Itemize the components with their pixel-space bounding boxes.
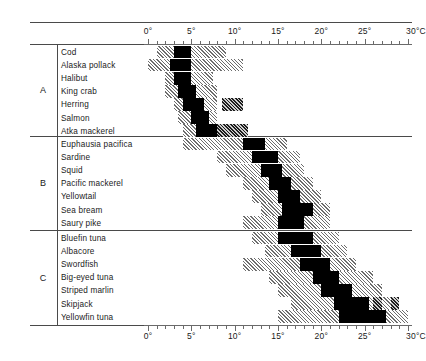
axis-tick-minor: [217, 41, 218, 44]
axis-tick-label: 25°: [358, 26, 371, 36]
axis-tick-minor: [339, 41, 340, 44]
axis-tick-minor: [382, 326, 383, 329]
axis-tick-minor: [330, 41, 331, 44]
secondary-tolerance-range-bar: [373, 297, 382, 310]
axis-tick-minor: [252, 41, 253, 44]
species-label: Atka mackerel: [61, 126, 115, 135]
group-letter-c: C: [40, 273, 47, 283]
axis-tick-minor: [339, 326, 340, 329]
chart-top-rule: [30, 22, 412, 23]
optimal-range-bar: [300, 258, 330, 271]
axis-tick-label: 25°: [358, 331, 371, 341]
optimal-range-bar: [261, 164, 283, 177]
axis-tick-minor: [200, 41, 201, 44]
optimal-range-bar: [339, 310, 387, 323]
axis-tick-major: [321, 39, 322, 44]
species-label: Sardine: [61, 153, 90, 162]
axis-tick-minor: [356, 326, 357, 329]
axis-tick-minor: [226, 41, 227, 44]
axis-tick-label: 20°: [315, 331, 328, 341]
axis-tick-minor: [373, 326, 374, 329]
axis-tick-minor: [165, 326, 166, 329]
optimal-range-bar: [252, 151, 278, 164]
axis-tick-minor: [373, 41, 374, 44]
optimal-range-bar: [174, 72, 191, 85]
axis-tick-minor: [261, 41, 262, 44]
optimal-range-bar: [243, 138, 265, 151]
axis-tick-minor: [304, 41, 305, 44]
optimal-range-bar: [334, 297, 369, 310]
species-label: Euphausia pacifica: [61, 140, 132, 149]
axis-tick-minor: [313, 41, 314, 44]
species-label: Skipjack: [61, 299, 93, 308]
secondary-tolerance-range-bar: [222, 98, 244, 111]
axis-tick-minor: [165, 41, 166, 44]
axis-tick-minor: [269, 326, 270, 329]
group-letter-b: B: [40, 178, 46, 188]
secondary-tolerance-range-bar: [217, 124, 247, 137]
axis-tick-minor: [243, 41, 244, 44]
axis-tick-major: [278, 39, 279, 44]
optimal-range-bar: [313, 271, 339, 284]
axis-tick-minor: [347, 41, 348, 44]
species-label: Alaska pollack: [61, 61, 115, 70]
axis-tick-minor: [200, 326, 201, 329]
species-label: Sea bream: [61, 205, 102, 214]
optimal-range-bar: [282, 203, 312, 216]
optimal-range-bar: [278, 232, 313, 245]
group-letter-a: A: [40, 85, 46, 95]
axis-tick-minor: [356, 41, 357, 44]
optimal-range-bar: [291, 245, 321, 258]
axis-tick-label: 10°: [228, 26, 241, 36]
axis-tick-label: 0°: [144, 331, 153, 341]
axis-tick-minor: [313, 326, 314, 329]
axis-tick-major: [235, 39, 236, 44]
optimal-range-bar: [178, 85, 195, 98]
axis-tick-minor: [209, 326, 210, 329]
axis-tick-minor: [399, 326, 400, 329]
tolerance-range-bar: [148, 59, 243, 72]
axis-tick-minor: [330, 326, 331, 329]
axis-tick-minor: [183, 41, 184, 44]
axis-tick-minor: [391, 41, 392, 44]
species-label: Swordfish: [61, 260, 98, 269]
axis-tick-major: [191, 39, 192, 44]
axis-tick-major: [408, 39, 409, 44]
species-label: Yellowfin tuna: [61, 312, 113, 321]
species-label: Squid: [61, 166, 83, 175]
species-label: Saury pike: [61, 218, 101, 227]
axis-tick-minor: [391, 326, 392, 329]
optimal-range-bar: [269, 177, 291, 190]
axis-tick-minor: [174, 41, 175, 44]
optimal-range-bar: [278, 216, 304, 229]
axis-tick-minor: [347, 326, 348, 329]
axis-tick-label: 5°: [187, 331, 196, 341]
axis-tick-label: 30°C: [406, 331, 426, 341]
axis-tick-minor: [261, 326, 262, 329]
optimal-range-bar: [170, 59, 192, 72]
axis-tick-label: 10°: [228, 331, 241, 341]
axis-tick-minor: [174, 326, 175, 329]
axis-tick-label: 20°: [315, 26, 328, 36]
optimal-range-bar: [191, 111, 208, 124]
axis-tick-minor: [382, 41, 383, 44]
tolerance-range-bar: [183, 138, 287, 151]
axis-tick-minor: [295, 326, 296, 329]
optimal-range-bar: [183, 98, 205, 111]
axis-tick-minor: [269, 41, 270, 44]
species-label: Big-eyed tuna: [61, 273, 113, 282]
axis-tick-minor: [287, 326, 288, 329]
axis-tick-minor: [217, 326, 218, 329]
species-column-divider: [57, 44, 58, 325]
axis-tick-label: 0°: [144, 26, 153, 36]
axis-tick-minor: [226, 326, 227, 329]
species-label: King crab: [61, 87, 97, 96]
axis-tick-label: 30°C: [406, 26, 426, 36]
axis-tick-minor: [243, 326, 244, 329]
axis-tick-minor: [157, 326, 158, 329]
axis-tick-minor: [287, 41, 288, 44]
species-label: Halibut: [61, 74, 88, 83]
axis-tick-minor: [295, 41, 296, 44]
axis-tick-minor: [157, 41, 158, 44]
